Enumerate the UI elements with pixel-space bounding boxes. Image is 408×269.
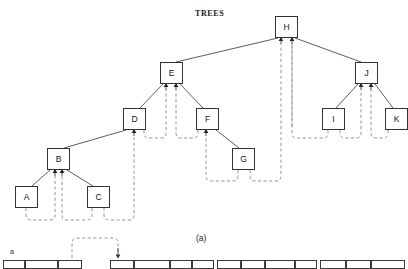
array-cell[interactable] bbox=[110, 260, 134, 269]
tree-node-label: I bbox=[332, 115, 334, 124]
array-cell[interactable] bbox=[320, 260, 346, 269]
tree-node-i[interactable]: I bbox=[322, 108, 345, 130]
tree-node-label: K bbox=[394, 115, 400, 124]
tree-node-k[interactable]: K bbox=[385, 108, 408, 130]
figure-title: TREES bbox=[195, 9, 224, 18]
array-cell[interactable] bbox=[265, 260, 295, 269]
edge-j-i bbox=[336, 84, 358, 108]
array-row-label: a bbox=[10, 248, 14, 255]
tree-node-d[interactable]: D bbox=[123, 108, 146, 130]
tree-node-label: D bbox=[131, 115, 137, 124]
array-cell[interactable] bbox=[241, 260, 265, 269]
edge-e-f bbox=[180, 84, 203, 108]
tree-node-e[interactable]: E bbox=[160, 62, 183, 84]
edge-h-e bbox=[176, 38, 278, 62]
tree-node-label: E bbox=[169, 69, 175, 78]
edge-j-k bbox=[375, 84, 393, 108]
array-cell[interactable] bbox=[134, 260, 170, 269]
array-cell[interactable] bbox=[58, 260, 82, 269]
edge-f-g bbox=[216, 130, 239, 148]
tree-node-label: B bbox=[56, 155, 62, 164]
tree-node-g[interactable]: G bbox=[232, 148, 255, 170]
array-cell[interactable] bbox=[192, 260, 214, 269]
tree-node-label: C bbox=[95, 193, 101, 202]
array-cell[interactable] bbox=[295, 260, 317, 269]
thread-array-loop bbox=[72, 238, 118, 258]
thread-d-to-e bbox=[144, 90, 166, 138]
tree-node-label: J bbox=[364, 69, 368, 78]
tree-node-label: H bbox=[283, 23, 289, 32]
figure-caption: (a) bbox=[196, 233, 206, 243]
tree-node-a[interactable]: A bbox=[15, 186, 38, 208]
array-cell[interactable] bbox=[346, 260, 371, 269]
edge-h-j bbox=[295, 38, 361, 62]
thread-f-to-e bbox=[176, 90, 198, 138]
tree-node-label: G bbox=[240, 155, 247, 164]
array-cell[interactable] bbox=[3, 260, 25, 269]
edge-d-b bbox=[64, 130, 126, 148]
tree-node-b[interactable]: B bbox=[47, 148, 70, 170]
tree-node-f[interactable]: F bbox=[196, 108, 219, 130]
array-cell[interactable] bbox=[371, 260, 405, 269]
tree-node-label: F bbox=[205, 115, 210, 124]
dashed-thread-links bbox=[26, 44, 388, 258]
edge-b-a bbox=[32, 170, 50, 186]
array-cell[interactable] bbox=[25, 260, 58, 269]
array-cell[interactable] bbox=[170, 260, 192, 269]
tree-node-label: A bbox=[24, 193, 30, 202]
array-cell[interactable] bbox=[217, 260, 241, 269]
tree-node-h[interactable]: H bbox=[275, 16, 298, 38]
tree-node-j[interactable]: J bbox=[355, 62, 378, 84]
edge-b-c bbox=[67, 170, 93, 186]
tree-node-c[interactable]: C bbox=[87, 186, 110, 208]
edge-e-d bbox=[140, 84, 163, 108]
